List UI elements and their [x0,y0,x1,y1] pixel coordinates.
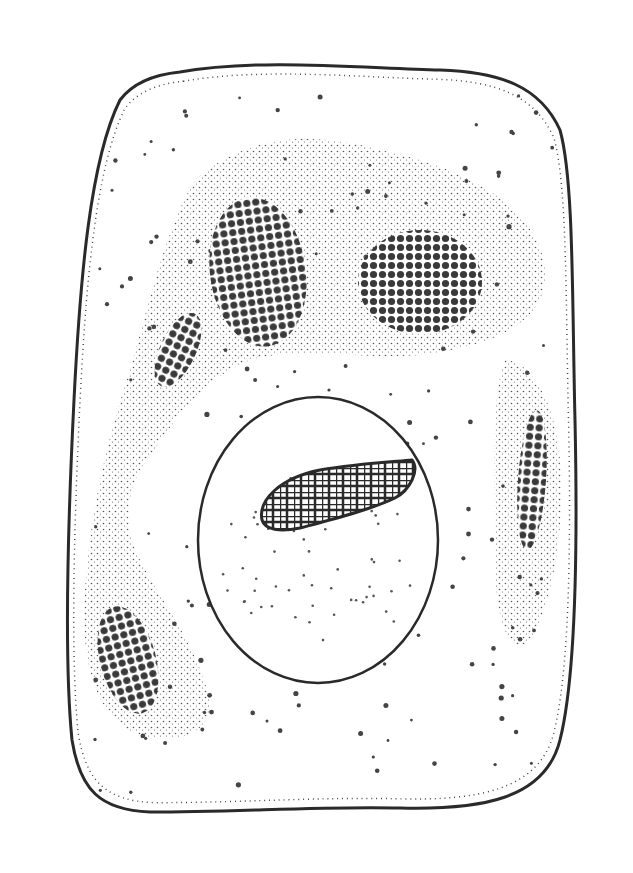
cell-illustration [0,0,633,873]
nucleus [198,397,438,683]
upper-right-mass [358,230,482,334]
cell-drawing [0,0,633,873]
